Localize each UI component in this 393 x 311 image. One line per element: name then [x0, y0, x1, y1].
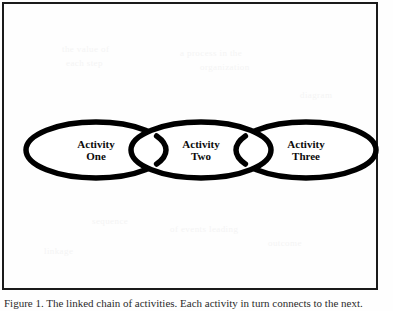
- node-label-activity-two: Activity Two: [182, 139, 219, 162]
- node-label-activity-one: Activity One: [77, 139, 114, 162]
- figure-caption: Figure 1. The linked chain of activities…: [4, 297, 390, 311]
- activity-chain-diagram: Activity One Activity Two Activity Three: [0, 0, 393, 311]
- figure-page: the value ofeach stepa process in theorg…: [0, 0, 393, 311]
- node-label-activity-three: Activity Three: [287, 139, 324, 162]
- node-label-line2: One: [77, 150, 114, 162]
- node-label-line1: Activity: [182, 138, 219, 150]
- node-label-line2: Three: [287, 150, 324, 162]
- figure-caption-text: Figure 1. The linked chain of activities…: [4, 297, 390, 310]
- node-label-line1: Activity: [287, 138, 324, 150]
- node-label-line1: Activity: [77, 138, 114, 150]
- node-label-line2: Two: [182, 150, 219, 162]
